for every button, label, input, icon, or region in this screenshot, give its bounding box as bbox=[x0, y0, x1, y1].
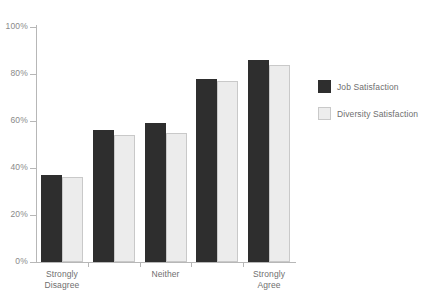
plot-area bbox=[36, 27, 295, 262]
y-axis-tick-label: 60% bbox=[0, 115, 28, 125]
legend-swatch-job-satisfaction bbox=[318, 80, 331, 93]
bar bbox=[93, 130, 114, 262]
bar bbox=[196, 79, 217, 262]
bar bbox=[217, 81, 238, 262]
x-axis-tick bbox=[191, 262, 192, 267]
legend-item: Diversity Satisfaction bbox=[318, 107, 434, 120]
x-axis-category-label: Strongly Disagree bbox=[26, 269, 98, 291]
bar bbox=[62, 177, 83, 262]
x-axis-category-label: Strongly Agree bbox=[233, 269, 305, 291]
y-axis-tick-label: 40% bbox=[0, 162, 28, 172]
chart-legend: Job Satisfaction Diversity Satisfaction bbox=[318, 80, 434, 134]
bar bbox=[166, 133, 187, 262]
x-axis-tick bbox=[140, 262, 141, 267]
x-axis-tick bbox=[243, 262, 244, 267]
legend-label-job-satisfaction: Job Satisfaction bbox=[337, 82, 399, 92]
legend-label-diversity-satisfaction: Diversity Satisfaction bbox=[337, 109, 418, 119]
y-axis-tick bbox=[30, 262, 36, 263]
legend-swatch-diversity-satisfaction bbox=[318, 107, 331, 120]
bar bbox=[269, 65, 290, 262]
x-axis-line bbox=[36, 262, 296, 263]
y-axis-tick-label: 20% bbox=[0, 209, 28, 219]
bar bbox=[114, 135, 135, 262]
bar bbox=[41, 175, 62, 262]
legend-item: Job Satisfaction bbox=[318, 80, 434, 93]
bar-chart: 0%20%40%60%80%100% Strongly DisagreeNeit… bbox=[0, 0, 436, 305]
y-axis-tick-label: 80% bbox=[0, 68, 28, 78]
bar bbox=[248, 60, 269, 262]
x-axis-category-label: Neither bbox=[130, 269, 202, 280]
x-axis-tick bbox=[88, 262, 89, 267]
bar bbox=[145, 123, 166, 262]
y-axis-tick-label: 0% bbox=[0, 256, 28, 266]
y-axis-tick-label: 100% bbox=[0, 21, 28, 31]
